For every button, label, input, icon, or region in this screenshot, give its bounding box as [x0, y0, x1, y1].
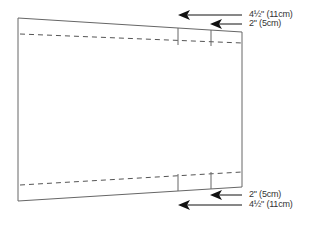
pattern-outline [18, 18, 242, 201]
label-bottom-inner: 2" (5cm) [249, 189, 281, 199]
arrow-bottom-inner [210, 190, 242, 200]
top-seam-line [20, 34, 242, 43]
arrow-bottom-outer [178, 200, 242, 210]
label-top-inner: 2" (5cm) [249, 18, 281, 28]
label-bottom-outer: 4½" (11cm) [249, 199, 293, 209]
arrow-top-outer [178, 10, 242, 20]
bottom-seam-line [20, 172, 242, 185]
arrow-top-inner [210, 19, 242, 29]
